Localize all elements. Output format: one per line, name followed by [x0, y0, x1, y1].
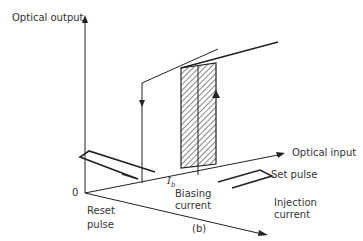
reset-pulse-label: Reset pulse — [87, 205, 115, 231]
set-pulse-shape — [218, 170, 272, 188]
injection-current-label: Injection current — [274, 197, 317, 221]
optical-output-axis — [82, 15, 88, 193]
reset-pulse-shape — [80, 151, 155, 179]
optical-input-label: Optical input — [292, 147, 356, 159]
set-pulse-label: Set pulse — [271, 169, 317, 181]
down-arrow-icon — [139, 100, 145, 107]
biasing-current-label: Biasing current — [175, 188, 211, 212]
optical-output-label: Optical output — [12, 12, 83, 24]
origin-label: 0 — [72, 187, 78, 199]
figure-caption: (b) — [192, 223, 206, 235]
bistable-region — [181, 63, 220, 175]
